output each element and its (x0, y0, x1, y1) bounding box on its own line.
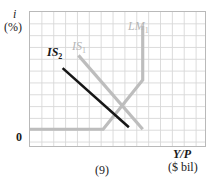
curves (30, 12, 205, 146)
origin-label: 0 (16, 131, 22, 144)
is2-curve-label: IS2 (47, 45, 62, 61)
lm1-curve (30, 26, 143, 129)
y-axis-symbol-label: i (13, 8, 16, 21)
plot-area (29, 11, 206, 147)
y-axis-unit-label: (%) (4, 21, 22, 34)
x-axis-symbol-label: Y/P (173, 148, 191, 161)
is-lm-diagram-figure: i (%) 0 (0, 0, 220, 185)
figure-caption: (9) (95, 164, 109, 177)
lm1-curve-label: LM1 (128, 19, 149, 35)
x-axis-unit-label: ($ bil) (168, 161, 198, 174)
is1-curve-label: IS1 (72, 39, 86, 55)
